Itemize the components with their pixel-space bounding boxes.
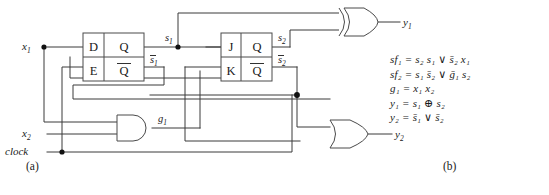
jk-ff-output-qbar: Q (252, 64, 261, 78)
junction-dot-clock (59, 149, 64, 154)
output-label-y1: y1 (402, 16, 412, 31)
signal-label-g1: g1 (158, 113, 167, 127)
input-label-x1: x1 (21, 40, 31, 55)
xor-gate-y1[interactable] (339, 8, 378, 36)
d-flip-flop[interactable]: D E Q Q (83, 33, 144, 81)
output-label-y2: y2 (394, 128, 404, 143)
equation-sf2: sf₂ = s₁ s̄₂ ∨ ḡ₁ s₂ (390, 67, 540, 82)
d-ff-output-qbar: Q (119, 64, 128, 78)
figure-container: D E Q Q J K Q Q (0, 0, 549, 195)
signal-label-s1bar: s1 (150, 54, 158, 68)
caption-a: (a) (26, 160, 39, 172)
junction-dot-x1 (41, 44, 46, 49)
jk-ff-input-j: J (229, 40, 234, 54)
d-ff-input-e: E (90, 64, 98, 78)
equation-y2: y₂ = s̄₁ ∨ s̄₂ (390, 110, 540, 125)
signal-label-s2bar: s2 (278, 54, 286, 68)
input-label-x2: x2 (21, 127, 31, 142)
input-label-clock: clock (5, 145, 29, 157)
jk-flip-flop[interactable]: J K Q Q (221, 33, 272, 81)
jk-ff-input-k: K (226, 64, 235, 78)
equation-g1: g₁ = x₁ x₂ (390, 81, 540, 96)
or-gate-y2[interactable] (330, 120, 368, 148)
jk-ff-output-q: Q (252, 40, 261, 54)
equation-sf1: sf₁ = s₂ s₁ ∨ s̄₂ x₁ (390, 52, 540, 67)
signal-label-s1: s1 (165, 32, 173, 46)
junction-dot-s1 (175, 44, 180, 49)
caption-b: (b) (443, 160, 456, 172)
junction-dot-s2bar (294, 92, 300, 98)
d-ff-output-q: Q (119, 40, 128, 54)
and-gate-g1[interactable] (117, 115, 146, 141)
equations-list: sf₁ = s₂ s₁ ∨ s̄₂ x₁ sf₂ = s₁ s̄₂ ∨ ḡ₁ s… (390, 52, 540, 125)
equation-y1: y₁ = s₁ ⊕ s₂ (390, 96, 540, 111)
d-ff-input-d: D (89, 40, 98, 54)
signal-label-s2: s2 (278, 32, 286, 46)
